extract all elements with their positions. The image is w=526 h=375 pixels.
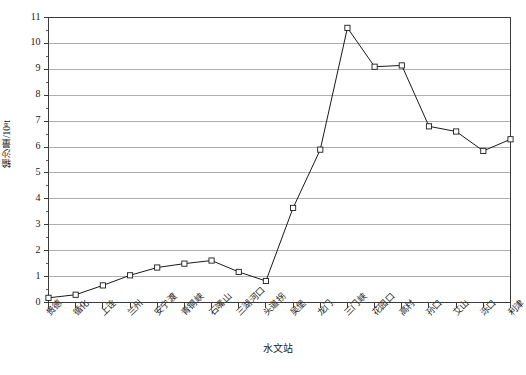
data-series-layer [46, 25, 513, 300]
x-axis-ticks [49, 303, 511, 308]
axes [49, 18, 511, 304]
y-axis-ticks [44, 18, 49, 303]
gridlines [49, 18, 511, 303]
